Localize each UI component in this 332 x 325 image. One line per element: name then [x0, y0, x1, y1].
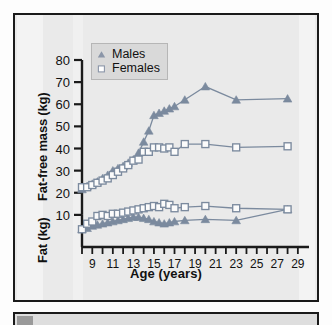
y-axis-title-fat-free-mass: Fat-free mass (kg)	[35, 93, 50, 201]
next-figure-panel-partial	[13, 312, 319, 325]
square-open-marker	[135, 156, 142, 163]
square-open-marker	[181, 141, 188, 148]
triangle-up-marker	[145, 127, 154, 134]
square-open-marker	[202, 141, 209, 148]
y-axis-tick-label: 80	[56, 53, 70, 68]
square-open-marker-icon	[97, 64, 106, 73]
square-open-marker	[181, 204, 188, 211]
panel-label-strip	[17, 316, 33, 325]
square-open-marker	[233, 144, 240, 151]
square-open-marker	[284, 206, 291, 213]
chart-legend: Males Females	[91, 43, 168, 80]
legend-label-females: Females	[112, 61, 160, 75]
square-open-marker	[233, 205, 240, 212]
series-line	[82, 144, 288, 187]
triangle-up-marker	[170, 102, 179, 109]
triangle-up-marker-icon	[97, 50, 106, 59]
y-axis-tick-label: 60	[56, 97, 70, 112]
square-open-marker	[171, 205, 178, 212]
y-axis-tick-label: 20	[56, 186, 70, 201]
square-open-marker	[202, 203, 209, 210]
x-axis-title: Age (years)	[15, 266, 317, 281]
figure-panel: 1020304050607080911131517192123252729 Fa…	[13, 13, 319, 302]
y-axis-tick-label: 10	[56, 208, 70, 223]
legend-item-males: Males	[97, 47, 160, 61]
triangle-up-marker	[139, 138, 148, 145]
y-axis-tick-label: 30	[56, 164, 70, 179]
triangle-up-marker	[180, 96, 189, 103]
triangle-up-marker	[201, 82, 210, 89]
y-axis-tick-label: 70	[56, 75, 70, 90]
legend-label-males: Males	[112, 47, 145, 61]
square-open-marker	[171, 148, 178, 155]
legend-item-females: Females	[97, 61, 160, 75]
y-axis-tick-label: 50	[56, 119, 70, 134]
figure-root: 1020304050607080911131517192123252729 Fa…	[0, 0, 332, 325]
square-open-marker	[284, 143, 291, 150]
series-1	[79, 141, 292, 191]
y-axis-title-fat: Fat (kg)	[35, 218, 50, 263]
y-axis-tick-label: 40	[56, 142, 70, 157]
